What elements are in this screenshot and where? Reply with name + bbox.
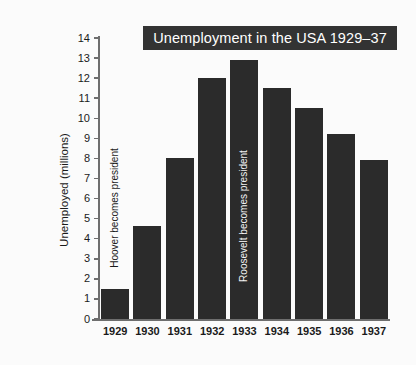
y-axis-tick-label: 8 [84,152,94,163]
bar[interactable] [295,108,323,319]
y-axis-tick-label: 4 [84,233,94,244]
bar-group [131,38,163,319]
bar-group [325,38,357,319]
bar[interactable] [360,160,388,319]
bar[interactable] [101,289,129,319]
bar-group: Roosevelt becomes president [228,38,260,319]
y-axis-tick-label: 13 [78,52,94,63]
y-axis-tick-label: 5 [84,213,94,224]
bar-group [358,38,390,319]
y-axis-tick-label: 0 [84,313,94,324]
chart-figure: Unemployment in the USA 1929–37 Unemploy… [0,0,416,365]
x-axis-line [92,319,390,321]
x-axis-tick-label: 1937 [354,325,394,337]
y-axis-tick-label: 7 [84,173,94,184]
y-axis-tick-label: 6 [84,193,94,204]
bar-group [261,38,293,319]
bar-group [293,38,325,319]
bar-annotation-text: Hoover becomes president [110,148,120,268]
y-axis-tick-label: 2 [84,273,94,284]
bar-group [196,38,228,319]
y-axis-tick-label: 3 [84,253,94,264]
bar-series: Hoover becomes presidentRoosevelt become… [99,38,390,319]
bar[interactable] [198,78,226,319]
bar-group: Hoover becomes president [99,38,131,319]
bar[interactable] [263,88,291,319]
bar-annotation: Hoover becomes president [101,133,129,283]
y-axis-tick-label: 14 [78,32,94,43]
y-axis-tick-label: 12 [78,72,94,83]
bar-group [164,38,196,319]
y-axis-tick-label: 10 [78,112,94,123]
bar[interactable] [230,60,258,319]
bar[interactable] [327,134,355,319]
y-axis-tick-label: 9 [84,132,94,143]
y-axis-label: Unemployed (millions) [54,110,74,270]
y-axis-tick-label: 11 [79,92,94,103]
y-axis-label-text: Unemployed (millions) [58,133,70,247]
bar[interactable] [166,158,194,319]
bar[interactable] [133,226,161,319]
y-axis-tick-label: 1 [84,293,94,304]
